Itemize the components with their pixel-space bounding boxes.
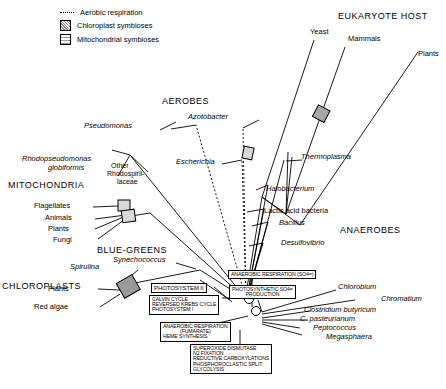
label-pseudomonas: Pseudomonas: [84, 122, 132, 130]
branch-plants-host: [300, 52, 418, 225]
diagram-canvas: Aerobic respiration Chloroplast symbiose…: [0, 0, 446, 389]
chloroplast-square-plants: [312, 105, 330, 123]
mitochondrial-square-flagellates: [118, 200, 130, 211]
leader-flagellates: [93, 206, 118, 207]
box-line: PRODUCTION: [232, 292, 293, 297]
leader-lactic: [247, 209, 264, 212]
label-other-rhodo-line2: Rhodospiril-: [107, 170, 144, 177]
box-line: PHOTOSYSTEM I: [152, 307, 216, 312]
label-other-rhodo-line3: laceae: [117, 178, 138, 185]
label-clostridium-butyricum: Clostridium butyricum: [304, 306, 376, 314]
chloroplast-square-icon: [60, 20, 71, 31]
mitochondrial-square-icon: [60, 34, 71, 45]
heading-mitochondria: MITOCHONDRIA: [8, 181, 84, 190]
label-plants-chloro: Plants: [48, 285, 69, 293]
label-red-algae: Red algae: [34, 303, 68, 311]
label-yeast: Yeast: [310, 28, 329, 36]
label-mammals: Mammals: [348, 35, 381, 43]
leader-pseudomonas: [171, 125, 196, 129]
label-spirulina: Spirulina: [70, 263, 99, 271]
label-other-rhodo-line1: Other: [111, 162, 129, 169]
leader-red-algae: [100, 294, 120, 307]
legend: Aerobic respiration Chloroplast symbiose…: [60, 8, 159, 48]
box-photosynthetic-so4: PHOTOSYNTHETIC SO4= PRODUCTION: [229, 285, 296, 299]
label-desulfovibrio: Desulfovibrio: [281, 239, 324, 247]
legend-label: Aerobic respiration: [80, 8, 143, 17]
branch-yeast: [262, 40, 314, 197]
legend-label: Mitochondrial symbioses: [77, 35, 159, 44]
label-peptococcus: Peptococcus: [313, 324, 356, 332]
label-plants-host: Plants: [418, 50, 439, 58]
branch-lactic: [247, 209, 264, 297]
branch-peptococcus: [262, 322, 300, 328]
label-chromatium: Chromatium: [381, 295, 422, 303]
label-flagellates: Flagellates: [34, 202, 70, 210]
chloroplast-square-algae: [116, 275, 140, 299]
box-anaerobic-respiration-so4: ANAEROBIC RESPIRATION (SO4=): [228, 270, 316, 279]
heading-anaerobes: ANAEROBES: [340, 226, 401, 235]
leader-thermoplasma: [286, 160, 302, 161]
heading-chloroplasts: CHLOROPLASTS: [2, 282, 81, 291]
label-halobacterium: Halobacterium: [266, 185, 314, 193]
box-line: PHOTOSYSTEM II: [154, 285, 204, 291]
label-azotobacter: Azotobacter: [188, 113, 228, 121]
box-core-pathways: SUPEROXIDE DISMUTASE N2 FIXATION REDUCTI…: [190, 344, 272, 374]
legend-item-aerobic: Aerobic respiration: [60, 8, 159, 17]
label-escherichia: Escherichia: [176, 158, 215, 166]
legend-item-mitochondrial: Mitochondrial symbioses: [60, 34, 159, 45]
label-globiformis: globiformis: [48, 164, 84, 172]
mitochondrial-square-host: [242, 146, 254, 160]
label-megasphaera: Megasphaera: [326, 333, 372, 341]
legend-label: Chloroplast symbioses: [77, 21, 152, 30]
dotted-line-icon: [60, 12, 74, 13]
branch-bluegreen: [170, 270, 200, 276]
label-animals: Animals: [45, 214, 72, 222]
label-bacillus: Bacillus: [279, 219, 305, 227]
branch-megasphaera: [262, 324, 302, 335]
leader-fungi: [98, 220, 124, 239]
hub-node-lower: [252, 307, 261, 316]
label-chlorobium: Chlorobium: [338, 283, 376, 291]
box-line: GLYCOLYSIS: [193, 367, 269, 372]
leader-azotobacter: [243, 120, 259, 128]
box-calvin-cycle: CALVIN CYCLE REVERSED KREBS CYCLE PHOTOS…: [149, 295, 219, 315]
label-synechococcus: Synechococcus: [113, 256, 166, 264]
label-rhodopseudomonas: Rhodopseudomonas: [22, 155, 91, 163]
label-thermoplasma: Thermoplasma: [301, 153, 351, 161]
leader-synechococcus: [176, 263, 196, 269]
box-line: HEME SYNTHESIS: [163, 334, 228, 339]
box-photosystem-ii: PHOTOSYSTEM II: [151, 283, 207, 293]
label-fungi: Fungi: [53, 236, 72, 244]
leader-plants-chloro: [98, 289, 120, 290]
leader-rhodopseudomonas: [112, 150, 130, 155]
box-anaerobic-respiration-fumarate: ANAEROBIC RESPIRATION (FUMARATE) HEME SY…: [160, 322, 231, 342]
mitochondrial-square-animals: [121, 209, 136, 223]
legend-item-chloroplast: Chloroplast symbioses: [60, 20, 159, 31]
label-plants-mito: Plants: [48, 225, 69, 233]
heading-aerobes: AEROBES: [162, 97, 209, 106]
box-line: ANAEROBIC RESPIRATION (SO4=): [231, 272, 313, 277]
label-c-pasteurianum: C. pasteurianum: [300, 315, 355, 323]
leader-escherichia: [222, 160, 242, 164]
label-lactic-acid-bacteria: Lactic acid bacteria: [264, 207, 328, 215]
heading-eukaryote-host: EUKARYOTE HOST: [338, 12, 428, 21]
